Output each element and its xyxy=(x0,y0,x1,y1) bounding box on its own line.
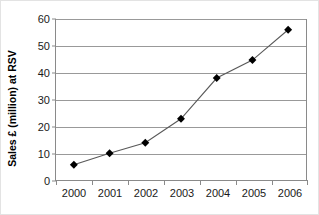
y-tick-label: 0 xyxy=(44,175,50,187)
x-tick-mark xyxy=(56,180,57,185)
x-tick-label: 2005 xyxy=(242,187,266,199)
y-tick-label: 60 xyxy=(38,13,50,25)
x-tick-mark xyxy=(200,180,201,185)
y-tick-label: 10 xyxy=(38,148,50,160)
x-tick-label: 2003 xyxy=(170,187,194,199)
x-tick-label: 2002 xyxy=(134,187,158,199)
data-point-marker xyxy=(70,161,78,169)
data-point-marker xyxy=(106,149,114,157)
series-line xyxy=(74,30,288,165)
x-tick-mark xyxy=(307,180,308,185)
y-tick-label: 30 xyxy=(38,94,50,106)
plot-area: 0102030405060 20002001200220032004200520… xyxy=(55,19,307,181)
y-tick-label: 20 xyxy=(38,121,50,133)
data-point-marker xyxy=(141,139,149,147)
x-tick-label: 2004 xyxy=(206,187,230,199)
y-axis-title: Sales £ (million) at RSV xyxy=(1,1,23,215)
data-series xyxy=(56,19,306,180)
x-tick-label: 2000 xyxy=(62,187,86,199)
x-tick-label: 2006 xyxy=(278,187,302,199)
x-tick-mark xyxy=(164,180,165,185)
x-tick-mark xyxy=(272,180,273,185)
x-tick-mark xyxy=(236,180,237,185)
y-tick-label: 40 xyxy=(38,67,50,79)
line-chart: Sales £ (million) at RSV 0102030405060 2… xyxy=(0,0,319,215)
x-tick-mark xyxy=(92,180,93,185)
x-tick-label: 2001 xyxy=(98,187,122,199)
y-tick-label: 50 xyxy=(38,40,50,52)
x-tick-mark xyxy=(128,180,129,185)
